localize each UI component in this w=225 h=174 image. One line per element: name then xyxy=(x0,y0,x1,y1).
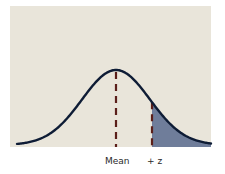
mean-label: Mean xyxy=(105,156,130,166)
normal-curve-diagram xyxy=(0,0,225,174)
diagram-stage: Mean + z xyxy=(0,0,225,174)
diagram-panel xyxy=(10,6,211,147)
z-label: + z xyxy=(147,156,162,166)
